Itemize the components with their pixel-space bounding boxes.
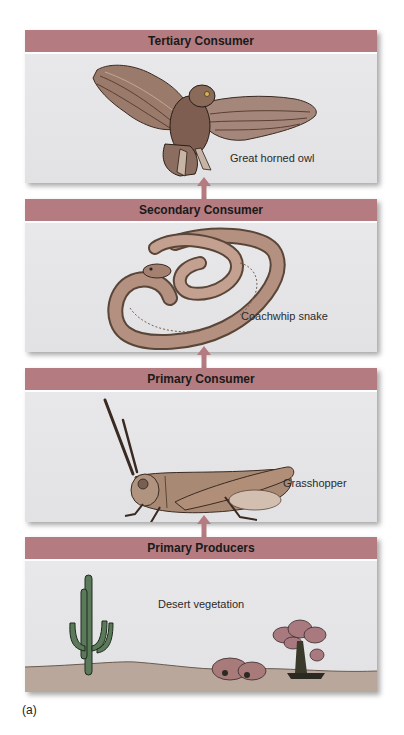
level-secondary-consumer: Secondary Consumer Coachwhip snake	[25, 199, 377, 352]
level-tertiary-consumer: Tertiary Consumer Great horned owl	[25, 30, 377, 183]
figure-label: (a)	[22, 703, 37, 717]
grasshopper-icon	[25, 392, 377, 522]
level-body: Great horned owl	[25, 54, 377, 183]
level-title: Tertiary Consumer	[25, 30, 377, 54]
level-body: Grasshopper	[25, 392, 377, 522]
snake-icon	[25, 223, 377, 352]
level-title: Primary Consumer	[25, 368, 377, 392]
arrow-up-icon	[197, 515, 211, 537]
level-body: Desert vegetation	[25, 561, 377, 692]
owl-icon	[25, 54, 377, 183]
level-primary-producers: Primary Producers	[25, 537, 377, 692]
desert-plants-icon	[25, 561, 377, 692]
level-primary-consumer: Primary Consumer Grasshopper	[25, 368, 377, 522]
organism-label: Coachwhip snake	[241, 310, 328, 322]
arrow-up-icon	[197, 177, 211, 199]
arrow-up-icon	[197, 346, 211, 368]
organism-label: Great horned owl	[230, 152, 314, 164]
level-title: Primary Producers	[25, 537, 377, 561]
organism-label: Grasshopper	[283, 477, 347, 489]
level-body: Coachwhip snake	[25, 223, 377, 352]
organism-label: Desert vegetation	[158, 598, 244, 610]
level-title: Secondary Consumer	[25, 199, 377, 223]
